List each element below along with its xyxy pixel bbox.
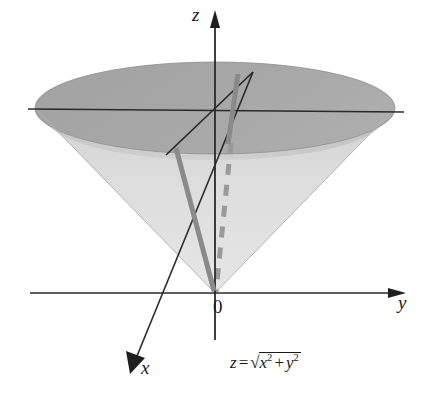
- equation-term2-exponent: 2: [294, 352, 299, 363]
- equation-lhs: z: [230, 353, 237, 372]
- equation-radicand: x2+y2: [259, 352, 301, 372]
- z-axis-arrowhead: [210, 10, 220, 28]
- y-axis-label: y: [398, 292, 406, 314]
- cone-diagram-svg: [0, 0, 423, 393]
- x-axis-label: x: [141, 357, 149, 379]
- equation-plus: +: [272, 353, 286, 372]
- radical-sign: √: [250, 353, 259, 373]
- equation-term1-base: x: [260, 353, 268, 372]
- equation-equals: =: [237, 353, 251, 372]
- surface-equation: z=√x2+y2: [230, 352, 301, 373]
- figure-container: z y x 0 z=√x2+y2: [0, 0, 423, 393]
- origin-label: 0: [213, 296, 223, 318]
- z-axis-label: z: [192, 4, 199, 26]
- equation-term2-base: y: [286, 353, 294, 372]
